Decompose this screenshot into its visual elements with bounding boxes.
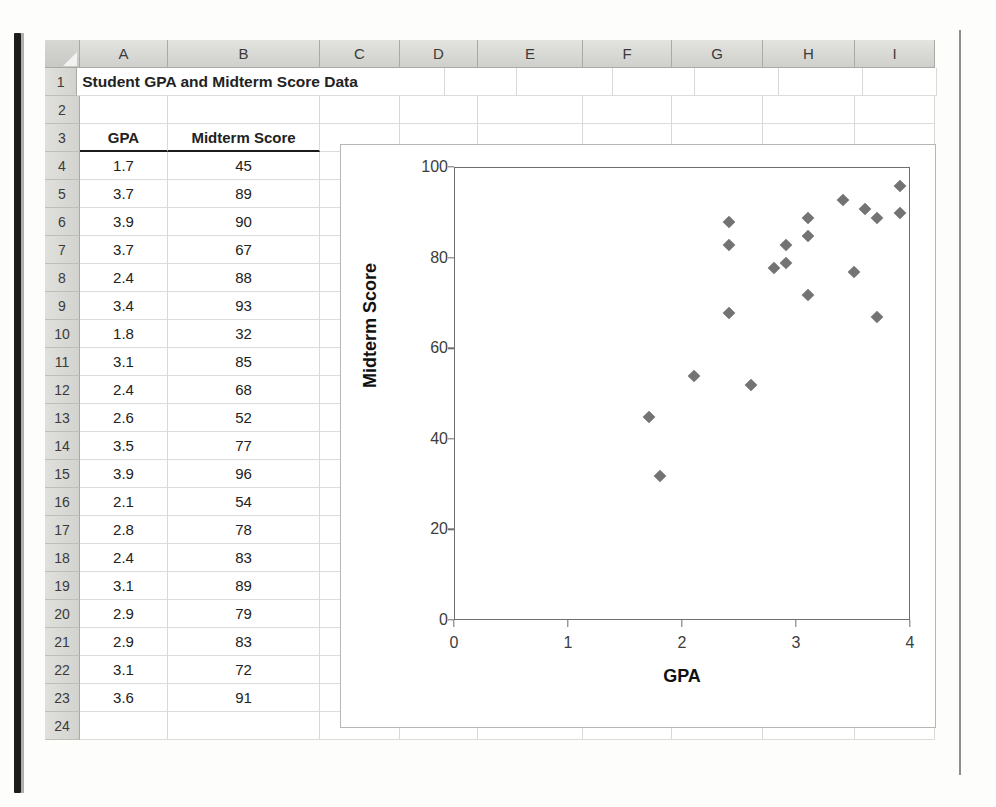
- row-header-15[interactable]: 15: [45, 460, 80, 488]
- cell-A10[interactable]: 1.8: [80, 320, 168, 348]
- cell-B9[interactable]: 93: [168, 292, 320, 320]
- cell-B8[interactable]: 88: [168, 264, 320, 292]
- cell-E1[interactable]: [517, 68, 614, 96]
- cell-I2[interactable]: [855, 96, 935, 124]
- cell-B24[interactable]: [168, 712, 320, 740]
- row-header-18[interactable]: 18: [45, 544, 80, 572]
- cell-A11[interactable]: 3.1: [80, 348, 168, 376]
- row-header-10[interactable]: 10: [45, 320, 80, 348]
- cell-B23[interactable]: 91: [168, 684, 320, 712]
- cell-A2[interactable]: [80, 96, 168, 124]
- row-header-16[interactable]: 16: [45, 488, 80, 516]
- row-header-9[interactable]: 9: [45, 292, 80, 320]
- cell-C2[interactable]: [320, 96, 400, 124]
- row-header-2[interactable]: 2: [45, 96, 80, 124]
- row-header-21[interactable]: 21: [45, 628, 80, 656]
- row-header-6[interactable]: 6: [45, 208, 80, 236]
- column-header-f[interactable]: F: [583, 40, 672, 68]
- cell-B5[interactable]: 89: [168, 180, 320, 208]
- cell-B13[interactable]: 52: [168, 404, 320, 432]
- cell-B20[interactable]: 79: [168, 600, 320, 628]
- cell-B14[interactable]: 77: [168, 432, 320, 460]
- cell-B10[interactable]: 32: [168, 320, 320, 348]
- row-header-5[interactable]: 5: [45, 180, 80, 208]
- scatter-point: [745, 379, 758, 392]
- cell-A23[interactable]: 3.6: [80, 684, 168, 712]
- row-header-11[interactable]: 11: [45, 348, 80, 376]
- cell-A3[interactable]: GPA: [80, 124, 168, 152]
- row-header-14[interactable]: 14: [45, 432, 80, 460]
- cell-A14[interactable]: 3.5: [80, 432, 168, 460]
- sheet-title-cell[interactable]: Student GPA and Midterm Score Data: [77, 68, 371, 96]
- cell-B4[interactable]: 45: [168, 152, 320, 180]
- row-header-4[interactable]: 4: [45, 152, 80, 180]
- row-header-8[interactable]: 8: [45, 264, 80, 292]
- cell-A21[interactable]: 2.9: [80, 628, 168, 656]
- cell-B15[interactable]: 96: [168, 460, 320, 488]
- cell-F2[interactable]: [583, 96, 672, 124]
- scatter-chart[interactable]: 020406080100 01234 GPA Midterm Score: [340, 144, 936, 728]
- cell-D2[interactable]: [400, 96, 478, 124]
- row-header-13[interactable]: 13: [45, 404, 80, 432]
- cell-I1[interactable]: [863, 68, 937, 96]
- cell-B19[interactable]: 89: [168, 572, 320, 600]
- cell-B17[interactable]: 78: [168, 516, 320, 544]
- row-header-19[interactable]: 19: [45, 572, 80, 600]
- cell-G1[interactable]: [695, 68, 779, 96]
- row-header-1[interactable]: 1: [45, 68, 77, 96]
- cell-A19[interactable]: 3.1: [80, 572, 168, 600]
- cell-A9[interactable]: 3.4: [80, 292, 168, 320]
- cell-B2[interactable]: [168, 96, 320, 124]
- cell-A16[interactable]: 2.1: [80, 488, 168, 516]
- row-header-12[interactable]: 12: [45, 376, 80, 404]
- column-header-e[interactable]: E: [478, 40, 583, 68]
- cell-A5[interactable]: 3.7: [80, 180, 168, 208]
- column-header-b[interactable]: B: [168, 40, 320, 68]
- column-header-d[interactable]: D: [400, 40, 478, 68]
- cell-B21[interactable]: 83: [168, 628, 320, 656]
- cell-H1[interactable]: [779, 68, 864, 96]
- cell-B12[interactable]: 68: [168, 376, 320, 404]
- row-header-23[interactable]: 23: [45, 684, 80, 712]
- cell-B22[interactable]: 72: [168, 656, 320, 684]
- cell-G2[interactable]: [672, 96, 763, 124]
- column-header-i[interactable]: I: [855, 40, 935, 68]
- cell-A13[interactable]: 2.6: [80, 404, 168, 432]
- row-header-7[interactable]: 7: [45, 236, 80, 264]
- cell-B6[interactable]: 90: [168, 208, 320, 236]
- cell-D1[interactable]: [445, 68, 517, 96]
- cell-A24[interactable]: [80, 712, 168, 740]
- cell-A6[interactable]: 3.9: [80, 208, 168, 236]
- row-header-3[interactable]: 3: [45, 124, 80, 152]
- cell-B3[interactable]: Midterm Score: [168, 124, 320, 152]
- cell-A20[interactable]: 2.9: [80, 600, 168, 628]
- column-header-c[interactable]: C: [320, 40, 400, 68]
- cell-H2[interactable]: [763, 96, 855, 124]
- column-header-h[interactable]: H: [763, 40, 855, 68]
- cell-A18[interactable]: 2.4: [80, 544, 168, 572]
- cell-A17[interactable]: 2.8: [80, 516, 168, 544]
- row-header-22[interactable]: 22: [45, 656, 80, 684]
- row-header-24[interactable]: 24: [45, 712, 80, 740]
- row-header-17[interactable]: 17: [45, 516, 80, 544]
- cell-B18[interactable]: 83: [168, 544, 320, 572]
- scatter-point: [893, 180, 906, 193]
- cell-A7[interactable]: 3.7: [80, 236, 168, 264]
- column-header-a[interactable]: A: [80, 40, 168, 68]
- cell-A15[interactable]: 3.9: [80, 460, 168, 488]
- cell-E2[interactable]: [478, 96, 583, 124]
- cell-A4[interactable]: 1.7: [80, 152, 168, 180]
- column-header-g[interactable]: G: [672, 40, 763, 68]
- cell-B11[interactable]: 85: [168, 348, 320, 376]
- cell-B16[interactable]: 54: [168, 488, 320, 516]
- cell-A12[interactable]: 2.4: [80, 376, 168, 404]
- cell-C1[interactable]: [372, 68, 446, 96]
- cell-F1[interactable]: [613, 68, 695, 96]
- cell-B7[interactable]: 67: [168, 236, 320, 264]
- cell-A22[interactable]: 3.1: [80, 656, 168, 684]
- x-tick-label: 1: [564, 634, 573, 652]
- select-all-corner[interactable]: [45, 40, 80, 68]
- cell-A8[interactable]: 2.4: [80, 264, 168, 292]
- row-header-20[interactable]: 20: [45, 600, 80, 628]
- y-axis-title: Midterm Score: [360, 211, 381, 441]
